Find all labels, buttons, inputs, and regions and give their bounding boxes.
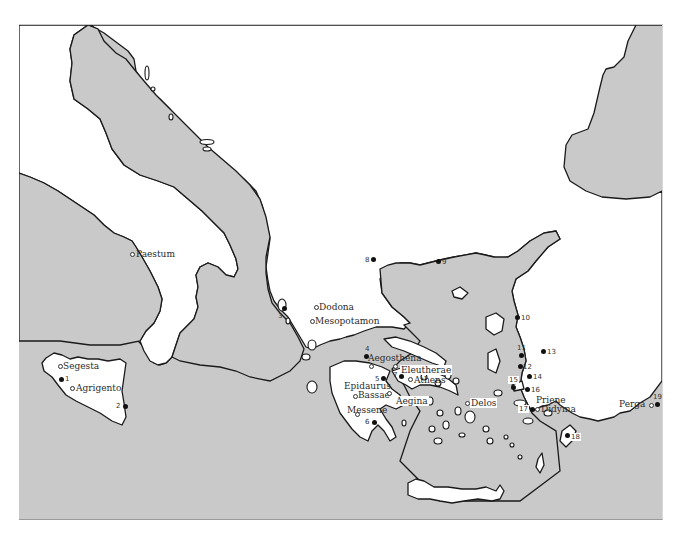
marker-site-1 bbox=[59, 377, 64, 382]
marker-site-8 bbox=[371, 257, 376, 262]
site-label-delos[interactable]: Delos bbox=[470, 398, 497, 408]
site-label-aegosthena[interactable]: Aegosthena bbox=[368, 353, 422, 363]
site-label-messene[interactable]: Messene bbox=[347, 405, 387, 415]
marker-site-13 bbox=[541, 349, 546, 354]
site-label-perga[interactable]: Perga bbox=[619, 399, 645, 409]
site-number-9[interactable]: 9 bbox=[442, 258, 446, 266]
site-number-11[interactable]: 11 bbox=[517, 344, 526, 352]
site-label-aegina[interactable]: Aegina bbox=[395, 396, 429, 406]
map-frame: Paestum Segesta Agrigento Dodona Mesopot… bbox=[19, 24, 663, 520]
marker-site-5 bbox=[381, 376, 386, 381]
marker-site-9 bbox=[436, 259, 441, 264]
map-base bbox=[19, 25, 662, 519]
site-label-didyma[interactable]: Didyma bbox=[541, 404, 576, 414]
site-number-5[interactable]: 5 bbox=[375, 375, 379, 383]
site-number-1[interactable]: 1 bbox=[65, 375, 69, 383]
marker-athens bbox=[408, 377, 413, 382]
site-number-13[interactable]: 13 bbox=[547, 348, 556, 356]
marker-aegina bbox=[387, 391, 392, 396]
marker-site-14 bbox=[527, 374, 532, 379]
site-number-3[interactable]: 3 bbox=[278, 312, 282, 320]
site-number-6[interactable]: 6 bbox=[365, 418, 369, 426]
marker-site-7 bbox=[399, 374, 404, 379]
site-number-18[interactable]: 18 bbox=[570, 433, 581, 441]
site-label-segesta[interactable]: Segesta bbox=[63, 361, 99, 371]
site-label-agrigento[interactable]: Agrigento bbox=[76, 383, 121, 393]
marker-site-11 bbox=[519, 353, 524, 358]
site-number-12[interactable]: 12 bbox=[523, 363, 532, 371]
marker-site-16 bbox=[525, 387, 530, 392]
marker-perga bbox=[649, 403, 654, 408]
site-number-14[interactable]: 14 bbox=[533, 373, 542, 381]
site-label-mesopotamon[interactable]: Mesopotamon bbox=[315, 316, 380, 326]
marker-site-10 bbox=[515, 315, 520, 320]
site-label-bassae[interactable]: Bassae bbox=[358, 390, 390, 400]
site-number-8[interactable]: 8 bbox=[365, 256, 369, 264]
marker-paestum bbox=[130, 252, 135, 257]
site-number-19[interactable]: 19 bbox=[653, 393, 662, 401]
marker-aegosthena bbox=[369, 364, 374, 369]
marker-eleutherae bbox=[393, 364, 398, 369]
site-label-paestum[interactable]: Paestum bbox=[136, 249, 175, 259]
site-label-dodona[interactable]: Dodona bbox=[319, 302, 354, 312]
marker-didyma bbox=[535, 407, 540, 412]
marker-site-3 bbox=[282, 306, 287, 311]
site-number-17[interactable]: 17 bbox=[518, 405, 529, 413]
marker-site-4 bbox=[364, 354, 369, 359]
site-number-15[interactable]: 15 bbox=[508, 376, 519, 384]
marker-agrigento bbox=[70, 386, 75, 391]
site-number-10[interactable]: 10 bbox=[521, 314, 530, 322]
site-number-7[interactable]: 7 bbox=[393, 371, 397, 379]
marker-site-2 bbox=[123, 404, 128, 409]
site-number-4[interactable]: 4 bbox=[365, 345, 369, 353]
marker-site-19 bbox=[655, 402, 660, 407]
site-label-eleutherae[interactable]: Eleutherae bbox=[400, 365, 452, 375]
site-number-2[interactable]: 2 bbox=[116, 402, 120, 410]
marker-site-17 bbox=[530, 407, 535, 412]
marker-site-15 bbox=[511, 385, 516, 390]
site-label-athens[interactable]: Athens bbox=[414, 375, 446, 385]
land-lesbos bbox=[486, 313, 504, 335]
marker-site-6 bbox=[372, 420, 377, 425]
site-number-16[interactable]: 16 bbox=[531, 386, 540, 394]
